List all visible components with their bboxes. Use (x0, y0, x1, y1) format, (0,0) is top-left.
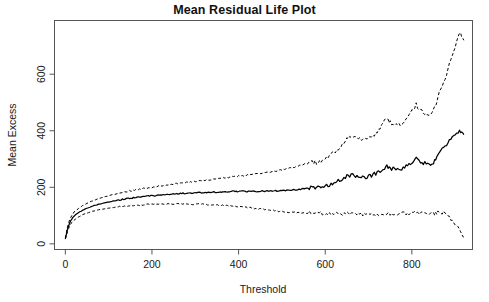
y-tick-label: 0 (36, 241, 48, 247)
y-tick-label: 400 (36, 122, 48, 140)
mean-residual-life-plot: Mean Residual Life Plot 0200400600800 02… (0, 0, 489, 302)
plot-frame (55, 21, 473, 250)
x-tick-label: 200 (143, 258, 161, 270)
x-axis-title: Threshold (240, 283, 287, 295)
y-axis-title: Mean Excess (6, 103, 18, 166)
x-tick-label: 0 (62, 258, 68, 270)
x-tick-label: 800 (403, 258, 421, 270)
series-line-2 (65, 203, 464, 239)
x-tick-label: 400 (230, 258, 248, 270)
series-line-0 (65, 33, 464, 238)
y-axis-ticks: 0200400600 (36, 65, 55, 246)
plot-canvas: 0200400600800 0200400600 Threshold Mean … (0, 0, 489, 302)
series-line-1 (65, 130, 464, 238)
y-tick-label: 600 (36, 65, 48, 83)
data-series-layer (65, 33, 464, 239)
x-axis-ticks: 0200400600800 (62, 250, 420, 270)
x-tick-label: 600 (316, 258, 334, 270)
y-tick-label: 200 (36, 178, 48, 196)
